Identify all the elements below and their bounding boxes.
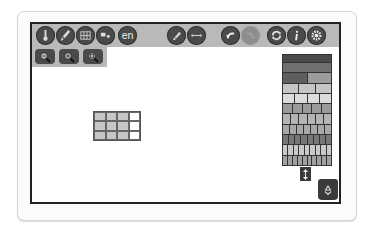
fraction-piece[interactable] [289, 135, 294, 144]
fraction-piece[interactable] [305, 145, 309, 154]
fraction-piece[interactable] [283, 145, 287, 154]
fraction-piece[interactable] [326, 135, 331, 144]
palette-row[interactable] [283, 125, 331, 134]
fraction-piece[interactable] [312, 156, 316, 165]
fraction-piece[interactable] [316, 114, 323, 123]
fraction-piece[interactable] [283, 94, 294, 103]
grid-cell[interactable] [129, 121, 141, 130]
fraction-piece[interactable] [283, 125, 289, 134]
undo-button[interactable] [221, 26, 240, 45]
grid-cell[interactable] [106, 131, 118, 140]
fraction-piece[interactable] [314, 135, 319, 144]
refresh-button[interactable] [267, 26, 286, 45]
fraction-piece[interactable] [283, 114, 290, 123]
fraction-bar-palette[interactable] [282, 54, 332, 166]
fraction-piece[interactable] [295, 94, 306, 103]
fraction-piece[interactable] [283, 156, 287, 165]
fraction-piece[interactable] [308, 135, 313, 144]
resize-arrows-icon [190, 29, 203, 42]
fraction-piece[interactable] [299, 84, 314, 93]
fraction-piece[interactable] [283, 104, 292, 113]
paint-bucket-button[interactable] [96, 26, 115, 45]
fraction-piece[interactable] [283, 135, 288, 144]
pencil-button[interactable] [167, 26, 186, 45]
palette-row[interactable] [283, 104, 331, 113]
fraction-piece[interactable] [304, 125, 310, 134]
palette-row[interactable] [283, 156, 331, 165]
fraction-piece[interactable] [318, 125, 324, 134]
fraction-piece[interactable] [299, 145, 303, 154]
grid-cell[interactable] [129, 112, 141, 121]
fraction-piece[interactable] [293, 156, 297, 165]
fraction-piece[interactable] [303, 156, 307, 165]
fraction-piece[interactable] [288, 156, 292, 165]
fraction-piece[interactable] [294, 145, 298, 154]
fraction-piece[interactable] [283, 73, 307, 82]
zoom-out-button[interactable] [35, 49, 55, 64]
trash-button[interactable] [318, 179, 338, 200]
fraction-piece[interactable] [298, 156, 302, 165]
palette-row[interactable] [283, 145, 331, 154]
fraction-piece[interactable] [288, 145, 292, 154]
fraction-piece[interactable] [320, 135, 325, 144]
grid-cell[interactable] [94, 121, 106, 130]
zoom-reset-button[interactable] [83, 49, 103, 64]
fraction-piece[interactable] [325, 125, 331, 134]
palette-resize-handle[interactable] [300, 167, 311, 181]
fraction-piece[interactable] [308, 114, 315, 123]
fraction-piece[interactable] [321, 145, 325, 154]
info-button[interactable] [287, 26, 306, 45]
fraction-piece[interactable] [290, 125, 296, 134]
grid-cell[interactable] [117, 121, 129, 130]
fraction-piece[interactable] [299, 114, 306, 123]
grid-table-button[interactable] [76, 26, 95, 45]
workspace-canvas[interactable]: en [30, 22, 341, 204]
palette-row[interactable] [283, 84, 331, 93]
fraction-piece[interactable] [283, 55, 331, 62]
fraction-piece[interactable] [291, 114, 298, 123]
fraction-piece[interactable] [324, 114, 331, 123]
fraction-piece[interactable] [308, 156, 312, 165]
palette-row[interactable] [283, 114, 331, 123]
fraction-grid[interactable] [93, 111, 141, 141]
resize-button[interactable] [187, 26, 206, 45]
fraction-piece[interactable] [295, 135, 300, 144]
palette-row[interactable] [283, 73, 331, 82]
grid-cell[interactable] [117, 112, 129, 121]
fraction-piece[interactable] [316, 84, 331, 93]
fraction-piece[interactable] [322, 104, 331, 113]
zoom-in-button[interactable] [59, 49, 79, 64]
language-button[interactable]: en [118, 26, 137, 45]
fraction-piece[interactable] [293, 104, 302, 113]
fraction-piece[interactable] [283, 84, 298, 93]
settings-button[interactable] [307, 26, 326, 45]
fraction-piece[interactable] [303, 104, 312, 113]
grid-cell[interactable] [106, 112, 118, 121]
palette-row[interactable] [283, 135, 331, 144]
fraction-piece[interactable] [327, 145, 331, 154]
grid-cell[interactable] [106, 121, 118, 130]
fraction-piece[interactable] [320, 94, 331, 103]
fraction-piece[interactable] [308, 73, 332, 82]
fraction-piece[interactable] [316, 145, 320, 154]
redo-button[interactable] [241, 26, 260, 45]
grid-cell[interactable] [94, 112, 106, 121]
fraction-piece[interactable] [311, 125, 317, 134]
fraction-piece[interactable] [301, 135, 306, 144]
fraction-piece[interactable] [308, 94, 319, 103]
grid-cell[interactable] [94, 131, 106, 140]
palette-row[interactable] [283, 63, 331, 72]
fraction-piece[interactable] [312, 104, 321, 113]
palette-row[interactable] [283, 94, 331, 103]
thermometer-button[interactable] [36, 26, 55, 45]
fraction-piece[interactable] [297, 125, 303, 134]
palette-row[interactable] [283, 55, 331, 62]
paint-brush-button[interactable] [56, 26, 75, 45]
grid-cell[interactable] [129, 131, 141, 140]
fraction-piece[interactable] [317, 156, 321, 165]
fraction-piece[interactable] [310, 145, 314, 154]
grid-cell[interactable] [117, 131, 129, 140]
fraction-piece[interactable] [283, 63, 331, 72]
fraction-piece[interactable] [322, 156, 326, 165]
fraction-piece[interactable] [327, 156, 331, 165]
